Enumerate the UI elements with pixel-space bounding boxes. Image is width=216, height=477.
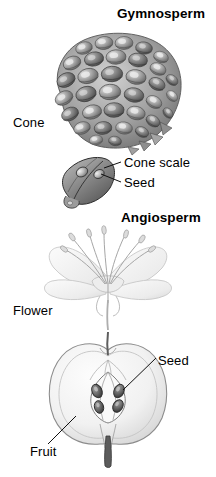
flower-sepal-left [96,296,103,316]
fruit-basal-stem [105,436,112,468]
fruit-illustration [49,332,166,468]
flower-anthers [59,226,156,254]
flower-sepal-right [113,296,120,316]
heading-gymnosperm: Gymnosperm [117,7,205,21]
pine-cone-illustration [53,33,181,155]
label-flower: Flower [13,304,53,317]
biology-diagram-figure: Gymnosperm Cone Cone scale Seed Angiospe… [0,0,216,477]
fruit-stem [107,332,108,356]
label-seed-cone: Seed [124,176,155,189]
flower-illustration [45,226,172,330]
label-fruit: Fruit [30,445,57,458]
flower-stem [107,300,108,330]
label-seed-fruit: Seed [158,354,189,367]
cone-scale-detail-illustration [63,157,115,208]
heading-angiosperm: Angiosperm [121,211,201,225]
diagram-artwork [0,0,216,477]
label-cone-scale: Cone scale [124,156,190,169]
label-cone: Cone [13,116,44,129]
